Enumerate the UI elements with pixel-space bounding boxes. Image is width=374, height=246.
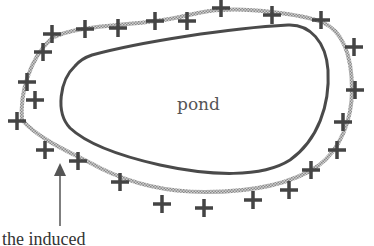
plus-charge-icon [244,191,262,209]
caption-label: the induced [2,229,85,246]
plus-charge-icon [212,0,230,17]
plus-charge-icon [43,25,61,43]
pond-label: pond [177,94,220,114]
plus-charge-icon [18,73,36,91]
plus-charge-icon [195,199,213,217]
plus-charge-icon [153,195,171,213]
plus-charge-icon [109,19,127,37]
plus-charge-icon [263,6,281,24]
plus-charge-icon [146,12,164,30]
plus-charge-icon [346,81,364,99]
plus-charge-icon [302,161,320,179]
pond-diagram: pond [0,0,374,246]
plus-charge-icon [76,20,94,38]
plus-charge-icon [26,91,44,109]
arrow-icon [54,163,66,226]
